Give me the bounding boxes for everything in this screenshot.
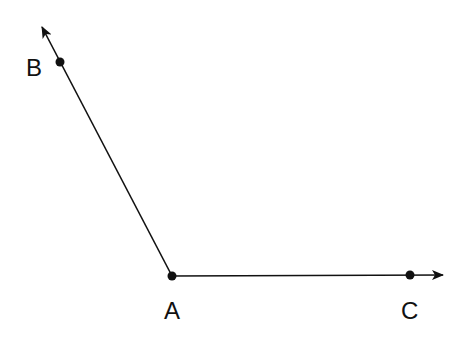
label-c: C bbox=[401, 297, 418, 324]
ray-ac bbox=[172, 275, 443, 276]
label-b: B bbox=[26, 54, 42, 81]
angle-diagram: B A C bbox=[0, 0, 467, 349]
label-a: A bbox=[164, 297, 180, 324]
point-c bbox=[406, 271, 415, 280]
point-a bbox=[168, 272, 177, 281]
point-b bbox=[56, 58, 65, 67]
